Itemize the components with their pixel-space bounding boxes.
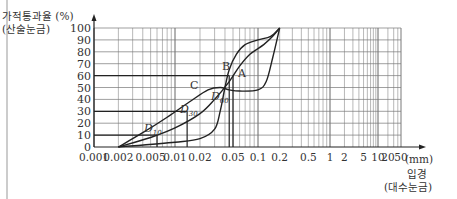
x-tick-label: 0.2 [271,151,288,163]
d30-label: D30 [179,103,198,118]
x-tick-label: 0.05 [221,151,244,163]
d10-label: D10 [143,122,162,137]
x-tick-label: 0.02 [188,151,211,163]
x-tick-label: 5 [360,151,367,163]
x-tick-label: 0.5 [300,151,317,163]
y-axis-subtitle: (산술눈금) [2,23,50,35]
x-tick-label: 0.01 [163,151,186,163]
y-tick-label: 80 [77,46,91,59]
y-tick-labels: 0102030405060708090100 [70,22,91,154]
y-tick-label: 50 [77,82,91,95]
x-tick-label: 1 [327,151,334,163]
x-tick-label: 0.005 [136,151,166,163]
y-axis-title: 가적통과율 (%) [2,10,74,22]
y-tick-label: 40 [77,93,91,106]
y-tick-label: 30 [77,105,91,118]
curve-label-b: B [222,60,230,73]
y-tick-label: 60 [77,70,91,83]
y-tick-label: 70 [77,58,91,71]
y-tick-label: 20 [77,117,91,130]
grain-size-distribution-chart: 0102030405060708090100 0.0010.0020.0050.… [0,0,457,199]
y-tick-label: 90 [77,34,91,47]
x-tick-labels: 0.0010.0020.0050.010.020.050.10.20.51251… [79,151,408,163]
d60-label: D60 [210,90,229,105]
x-tick-label: 2 [341,151,348,163]
x-axis-arrow-icon [419,145,426,150]
curve-label-a: A [237,67,247,80]
x-axis-unit: (mm) [405,153,433,165]
x-tick-label: 20 [381,151,394,163]
x-tick-label: 0.1 [250,151,267,163]
curve-label-c: C [190,79,198,92]
x-axis-subtitle: (대수눈금) [384,181,432,193]
y-axis-arrow-icon [92,14,97,21]
y-tick-label: 10 [77,129,91,142]
y-tick-label: 100 [70,22,91,35]
x-axis-title: 입경 [407,168,427,180]
x-tick-label: 0.002 [103,151,133,163]
